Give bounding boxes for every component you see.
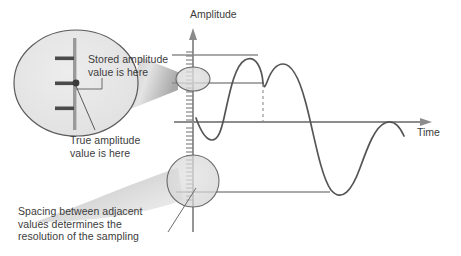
y-axis-label: Amplitude [190,8,237,20]
spacing-resolution-caption: Spacing between adjacent values determin… [18,205,183,243]
quantization-level-tick [55,107,74,111]
quantization-level-tick [55,57,74,61]
true-amplitude-annotation: True amplitude value is here [70,134,170,159]
analog-waveform [196,59,404,196]
y-axis-arrowhead [189,28,197,40]
x-axis-arrowhead [420,118,432,126]
stored-amplitude-annotation: Stored amplitude value is here [88,53,184,78]
lower-lens-circle [167,155,219,207]
quantization-level-tick [55,82,74,86]
stored-sample-dot [73,80,80,87]
sampling-resolution-diagram: Amplitude Time Stored amplitude value is… [0,0,461,256]
x-axis-label: Time [417,126,440,138]
